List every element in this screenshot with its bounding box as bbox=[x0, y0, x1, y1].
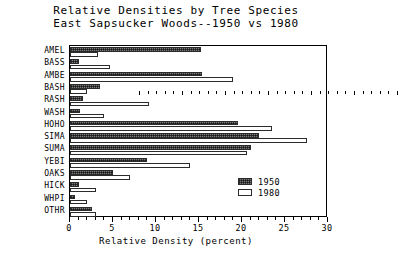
bar-sima-1980 bbox=[70, 138, 307, 143]
y-axis-label-wash: WASH bbox=[3, 108, 65, 117]
x-axis-label-20: 20 bbox=[235, 223, 246, 233]
legend-label-1950: 1950 bbox=[258, 177, 280, 187]
bar-whpi-1950 bbox=[70, 195, 75, 200]
bar-group-hoho bbox=[70, 120, 326, 132]
x-tick-minor-22 bbox=[258, 217, 259, 220]
bar-ambe-1950 bbox=[70, 72, 202, 77]
y-axis-label-hoho: HOHO bbox=[3, 120, 65, 129]
x-tick-minor-19 bbox=[232, 217, 233, 220]
x-tick-minor-23 bbox=[267, 217, 268, 220]
top-tick-24 bbox=[345, 91, 346, 94]
bar-bash-1980 bbox=[70, 89, 87, 94]
bar-group-suma bbox=[70, 144, 326, 156]
bar-yebi-1980 bbox=[70, 163, 190, 168]
y-axis-label-ambe: AMBE bbox=[3, 71, 65, 80]
bar-oaks-1980 bbox=[70, 175, 130, 180]
x-axis-title: Relative Density (percent) bbox=[0, 236, 352, 246]
bar-ambe-1980 bbox=[70, 77, 233, 82]
x-tick-major-10 bbox=[155, 217, 156, 222]
bar-amel-1980 bbox=[70, 52, 98, 57]
top-tick-26 bbox=[363, 91, 364, 94]
top-tick-22 bbox=[328, 91, 329, 94]
x-tick-minor-16 bbox=[207, 217, 208, 220]
bar-wash-1980 bbox=[70, 114, 104, 119]
y-axis-label-hick: HICK bbox=[3, 181, 65, 190]
y-axis-label-yebi: YEBI bbox=[3, 157, 65, 166]
bar-group-amel bbox=[70, 46, 326, 58]
x-tick-minor-26 bbox=[293, 217, 294, 220]
x-tick-major-30 bbox=[327, 217, 328, 222]
x-tick-minor-3 bbox=[95, 217, 96, 220]
x-tick-minor-24 bbox=[275, 217, 276, 220]
x-tick-minor-29 bbox=[318, 217, 319, 220]
bar-whpi-1980 bbox=[70, 200, 87, 205]
bar-suma-1950 bbox=[70, 145, 251, 150]
x-tick-major-5 bbox=[112, 217, 113, 222]
top-tick-27 bbox=[371, 91, 372, 94]
x-tick-minor-7 bbox=[129, 217, 130, 220]
legend-entry-1980: 1980 bbox=[238, 187, 312, 198]
hatched-gray-swatch bbox=[238, 178, 252, 185]
x-tick-major-15 bbox=[198, 217, 199, 222]
bar-sima-1950 bbox=[70, 133, 259, 138]
top-tick-29 bbox=[388, 91, 389, 94]
x-tick-minor-8 bbox=[138, 217, 139, 220]
white-swatch bbox=[238, 189, 252, 196]
x-tick-minor-13 bbox=[181, 217, 182, 220]
chart-title: Relative Densities by Tree Species bbox=[0, 4, 352, 17]
x-tick-minor-2 bbox=[86, 217, 87, 220]
x-tick-minor-28 bbox=[310, 217, 311, 220]
x-tick-minor-1 bbox=[78, 217, 79, 220]
x-tick-minor-18 bbox=[224, 217, 225, 220]
x-tick-minor-4 bbox=[103, 217, 104, 220]
bar-bass-1950 bbox=[70, 59, 79, 64]
x-tick-minor-14 bbox=[189, 217, 190, 220]
bar-othr-1980 bbox=[70, 212, 96, 217]
chart-legend: 19501980 bbox=[238, 176, 312, 198]
y-axis-label-whpi: WHPI bbox=[3, 194, 65, 203]
bar-amel-1950 bbox=[70, 47, 201, 52]
x-axis-label-5: 5 bbox=[109, 223, 115, 233]
top-tick-28 bbox=[380, 91, 381, 94]
x-axis-label-25: 25 bbox=[278, 223, 289, 233]
top-tick-25 bbox=[354, 91, 355, 95]
x-tick-minor-27 bbox=[301, 217, 302, 220]
bar-rash-1980 bbox=[70, 102, 149, 107]
y-axis-label-oaks: OAKS bbox=[3, 169, 65, 178]
bar-group-rash bbox=[70, 95, 326, 107]
y-axis-label-bass: BASS bbox=[3, 58, 65, 67]
x-axis-label-10: 10 bbox=[149, 223, 160, 233]
x-axis-label-30: 30 bbox=[321, 223, 332, 233]
bar-rash-1950 bbox=[70, 96, 83, 101]
bar-group-bass bbox=[70, 58, 326, 70]
bar-suma-1980 bbox=[70, 151, 247, 156]
bar-othr-1950 bbox=[70, 207, 92, 212]
bar-group-yebi bbox=[70, 157, 326, 169]
y-axis-tick-labels: AMELBASSAMBEBASHRASHWASHHOHOSIMASUMAYEBI… bbox=[0, 45, 65, 217]
x-tick-minor-21 bbox=[250, 217, 251, 220]
y-axis-label-amel: AMEL bbox=[3, 46, 65, 55]
bar-group-sima bbox=[70, 132, 326, 144]
bar-oaks-1950 bbox=[70, 170, 113, 175]
bar-bass-1980 bbox=[70, 65, 110, 70]
x-tick-minor-12 bbox=[172, 217, 173, 220]
x-tick-minor-11 bbox=[164, 217, 165, 220]
x-tick-minor-9 bbox=[146, 217, 147, 220]
x-tick-minor-6 bbox=[121, 217, 122, 220]
legend-label-1980: 1980 bbox=[258, 188, 280, 198]
x-tick-major-25 bbox=[284, 217, 285, 222]
x-axis-label-0: 0 bbox=[66, 223, 72, 233]
bar-group-ambe bbox=[70, 71, 326, 83]
y-axis-label-rash: RASH bbox=[3, 95, 65, 104]
x-axis-label-15: 15 bbox=[192, 223, 203, 233]
bar-yebi-1950 bbox=[70, 158, 147, 163]
chart-subtitle: East Sapsucker Woods--1950 vs 1980 bbox=[0, 17, 352, 30]
legend-entry-1950: 1950 bbox=[238, 176, 312, 187]
x-axis-tick-labels: 051015202530 bbox=[0, 223, 352, 235]
top-tick-23 bbox=[337, 91, 338, 94]
x-tick-minor-17 bbox=[215, 217, 216, 220]
x-tick-major-0 bbox=[69, 217, 70, 222]
y-axis-label-bash: BASH bbox=[3, 83, 65, 92]
bar-group-bash bbox=[70, 83, 326, 95]
